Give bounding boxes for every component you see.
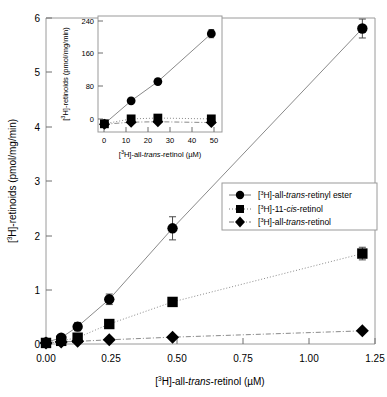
y-tick-label-3: 3 [34,176,40,187]
data-point-circle [207,29,216,38]
legend-0-post: -retinyl ester [305,190,352,200]
circle-marker-icon [236,191,244,199]
inset-x-tick-1: 10 [122,136,130,145]
legend-0-mid: H]-all- [263,190,286,200]
data-point-circle [153,77,162,86]
x-tick-label-5: 1.25 [365,353,385,364]
legend: [3H]-all-trans-retinyl ester [3H]-11-cis… [222,183,377,230]
inset-x-tick-4: 40 [188,136,196,145]
legend-label-0: [3H]-all-trans-retinyl ester [258,190,352,200]
x-tick-label-2: 0.50 [167,353,187,364]
x-title-mid: H]-all- [162,376,189,387]
inset-x-tick-2: 20 [144,136,152,145]
x-tick-label-1: 0.25 [101,353,121,364]
inset-y-tick-0: 0 [90,115,94,124]
inset-x-title-mid: H]-all- [124,150,145,159]
legend-2-post: -retinol [305,217,331,227]
square-marker-icon [236,205,244,213]
figure-chart: 0 1 2 3 4 5 6 [3H]-retinoids (pmol/mg/mi… [0,0,387,397]
inset-x-tick-5: 50 [210,136,218,145]
x-tick-label-3: 0.75 [233,353,253,364]
y-title-post: H]-retinoids (pmol/mg/min) [7,119,18,237]
inset-x-axis-title: [3H]-all-trans-retinol (µM) [119,149,202,159]
data-point-square [167,297,177,307]
legend-1-post: -retinol [297,204,323,214]
y-tick-label-2: 2 [34,231,40,242]
legend-item-11-cis-retinol[interactable]: [3H]-11-cis-retinol [229,204,323,214]
x-tick-label-0: 0.00 [36,353,56,364]
svg-text:[3H]-retinoids (pmol/mg/min): [3H]-retinoids (pmol/mg/min) [60,27,70,121]
x-title-post: -retinol (µM) [211,376,265,387]
legend-2-italic: trans [286,217,306,227]
inset-x-title-post: -retinol (µM) [161,150,202,159]
data-point-circle [104,294,114,304]
legend-0-italic: trans [286,190,306,200]
legend-label-1: [3H]-11-cis-retinol [258,204,323,214]
data-point-square [357,248,367,258]
data-point-circle [357,23,367,33]
inset-x-title-italic: trans [144,150,161,159]
x-tick-label-4: 1.00 [299,353,319,364]
main-x-axis-title: [3H]-all-trans-retinol (µM) [155,375,264,387]
y-tick-label-1: 1 [34,285,40,296]
data-point-circle [127,96,136,105]
inset-y-tick-3: 240 [81,17,94,26]
legend-1-mid: H]-11- [263,204,286,214]
main-y-axis-title: [3H]-retinoids (pmol/mg/min) [6,119,18,243]
data-point-circle [167,223,177,233]
legend-label-2: [3H]-all-trans-retinol [258,217,331,227]
y-tick-label-0: 0 [34,339,40,350]
legend-2-mid: H]-all- [263,217,286,227]
data-point-square [104,319,114,329]
y-tick-label-4: 4 [34,122,40,133]
y-tick-label-6: 6 [34,13,40,24]
inset-x-tick-0: 0 [102,136,106,145]
inset-x-tick-3: 30 [166,136,174,145]
x-title-italic: trans [188,376,210,387]
inset-y-tick-1: 80 [86,82,94,91]
inset-y-title-post: H]-retinoids (pmol/mg/min) [61,27,70,116]
inset-y-tick-2: 160 [81,49,94,58]
data-point-circle [72,321,82,331]
inset-y-axis-title: [3H]-retinoids (pmol/mg/min) [60,27,70,121]
y-tick-label-5: 5 [34,67,40,78]
svg-text:[3H]-retinoids (pmol/mg/min): [3H]-retinoids (pmol/mg/min) [6,119,18,243]
